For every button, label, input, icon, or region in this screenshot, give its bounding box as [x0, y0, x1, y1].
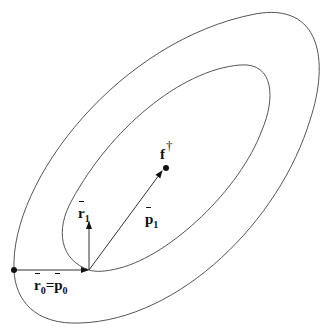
- r0-sub: 0: [41, 285, 46, 296]
- r0-base: r: [34, 278, 41, 293]
- p1-sub: 1: [153, 219, 158, 230]
- label-p1: p1: [145, 212, 158, 227]
- r1-sub: 1: [85, 213, 90, 224]
- dagger: †: [166, 138, 173, 153]
- f-base: f: [160, 146, 165, 162]
- p0-base: p: [54, 278, 62, 293]
- r1-base: r: [78, 206, 85, 221]
- start-point: [11, 267, 17, 273]
- equals-sign: =: [46, 277, 55, 293]
- solution-point: [163, 165, 169, 171]
- label-r0-eq-p0: r0=p0: [34, 278, 68, 293]
- label-r1: r1: [78, 206, 90, 221]
- p0-sub: 0: [63, 285, 68, 296]
- label-f-dagger: f†: [160, 147, 172, 162]
